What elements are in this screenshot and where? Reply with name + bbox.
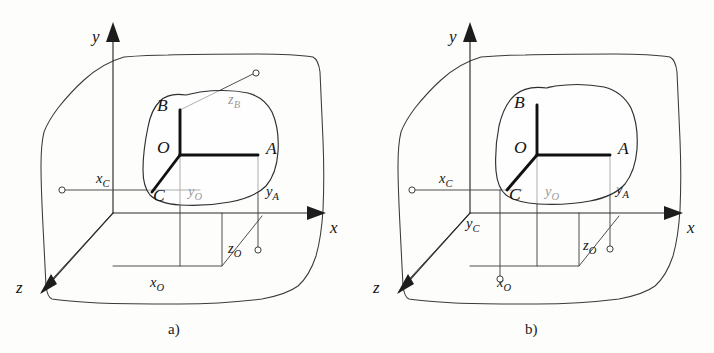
segment-xc-label-a: xC <box>95 170 110 189</box>
scan-artifact-ghost-b <box>367 58 370 73</box>
zb-endpoint-circle-a <box>253 70 259 76</box>
y-axis-arrowhead-b <box>463 22 477 42</box>
point-O-label-a: O <box>157 137 170 157</box>
segment-zo-label-b: zO <box>582 237 597 256</box>
point-O-label-b: O <box>514 137 527 157</box>
xo-projection-box-b <box>470 213 579 266</box>
segment-zo-label-a: zO <box>227 240 242 259</box>
z-axis-label-a: z <box>15 278 23 297</box>
point-C-label-a: C <box>153 185 165 205</box>
ya-endpoint-circle-b <box>607 246 613 252</box>
segment-xo-label-a: xO <box>149 274 164 293</box>
z-axis-label-b: z <box>372 278 380 297</box>
y-axis-label-b: y <box>447 27 457 46</box>
segment-yc-label-b: yC <box>464 215 480 234</box>
segment-xc-label-b: xC <box>438 170 453 189</box>
xo-projection-box-a <box>113 213 222 266</box>
y-axis-arrowhead-a <box>106 22 120 42</box>
caption-a: a) <box>168 321 180 338</box>
panel-b: z x y xC xO yO yC <box>357 0 714 353</box>
xc-endpoint-circle-b <box>409 187 415 193</box>
point-B-label-b: B <box>514 92 525 112</box>
ya-endpoint-circle-a <box>255 247 261 253</box>
x-axis-label-b: x <box>686 218 695 237</box>
x-axis-label-a: x <box>329 218 338 237</box>
panel-a: z x y xC xO yO yA <box>0 0 357 353</box>
figure-root: z x y xC xO yO yA <box>0 0 714 353</box>
y-axis-label-a: y <box>90 27 100 46</box>
point-A-label-b: A <box>617 138 629 158</box>
point-C-label-b: C <box>509 184 521 204</box>
point-B-label-a: B <box>157 95 168 115</box>
yc-endpoint-circle-b <box>497 276 503 282</box>
point-A-label-a: A <box>265 138 277 158</box>
caption-b: b) <box>525 321 538 338</box>
xc-endpoint-circle-a <box>59 187 65 193</box>
